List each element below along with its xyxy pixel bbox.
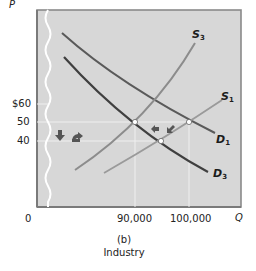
label-d3: D3 (213, 168, 227, 183)
label-s1: S1 (221, 91, 234, 106)
label-s1-main: S (221, 90, 229, 103)
label-s3-sub: 3 (200, 34, 205, 42)
x-axis-label: Q (235, 213, 243, 223)
label-s3: S3 (192, 29, 205, 44)
label-s1-sub: 1 (229, 96, 234, 104)
x-tick-origin: 0 (25, 214, 31, 224)
y-tick-40: 40 (17, 136, 30, 146)
equilibrium-point-s1-d3 (158, 138, 163, 143)
y-tick-50: 50 (17, 117, 30, 127)
y-tick-60: $60 (12, 99, 31, 109)
label-d3-main: D (213, 167, 222, 180)
label-d3-sub: 3 (222, 173, 227, 181)
y-axis-label: P (9, 0, 15, 10)
label-d1-sub: 1 (225, 139, 230, 147)
label-d1-main: D (216, 133, 225, 146)
panel-label: (b) (0, 234, 252, 246)
chart-caption: Industry (0, 247, 252, 259)
x-tick-100000: 100,000 (170, 214, 211, 224)
equilibrium-point-s1-d1 (186, 119, 191, 124)
equilibrium-point-s3-d3 (132, 119, 137, 124)
label-s3-main: S (192, 28, 200, 41)
x-tick-90000: 90,000 (117, 214, 152, 224)
label-d1: D1 (216, 134, 230, 149)
